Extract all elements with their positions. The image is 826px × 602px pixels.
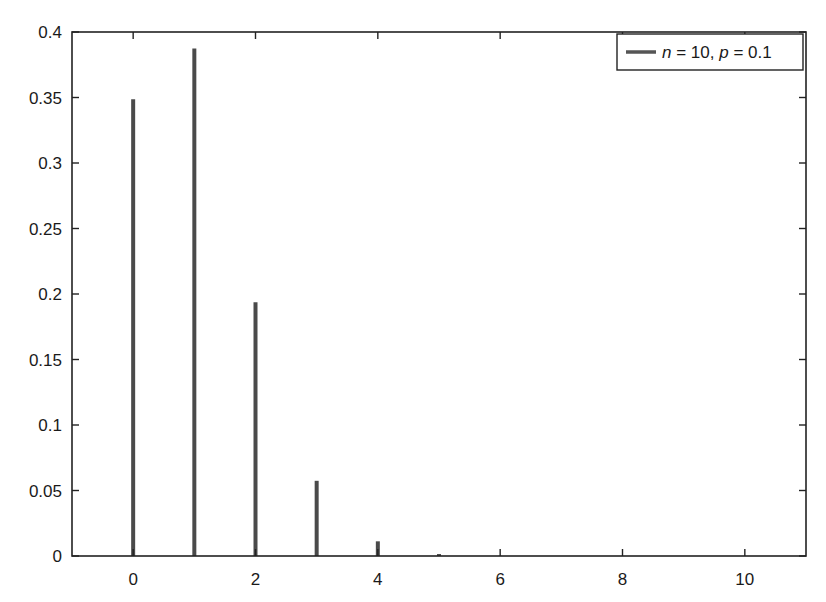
y-tick-label: 0 bbox=[53, 547, 62, 566]
y-tick-label: 0.35 bbox=[29, 89, 62, 108]
y-tick-label: 0.15 bbox=[29, 351, 62, 370]
stem-series bbox=[133, 49, 500, 556]
x-tick-label: 6 bbox=[495, 570, 504, 589]
y-tick-label: 0.05 bbox=[29, 482, 62, 501]
plot-area-frame bbox=[72, 32, 806, 556]
y-tick-label: 0.25 bbox=[29, 220, 62, 239]
x-axis: 0246810 bbox=[128, 32, 754, 589]
y-axis: 00.050.10.150.20.250.30.350.4 bbox=[29, 23, 806, 566]
y-tick-label: 0.4 bbox=[38, 23, 62, 42]
x-tick-label: 4 bbox=[373, 570, 382, 589]
stem-chart: 00.050.10.150.20.250.30.350.4 0246810 n … bbox=[0, 0, 826, 602]
x-tick-label: 2 bbox=[251, 570, 260, 589]
x-tick-label: 10 bbox=[735, 570, 754, 589]
x-tick-label: 0 bbox=[128, 570, 137, 589]
y-tick-label: 0.1 bbox=[38, 416, 62, 435]
legend-label: n = 10, p = 0.1 bbox=[662, 43, 772, 62]
y-tick-label: 0.2 bbox=[38, 285, 62, 304]
x-tick-label: 8 bbox=[618, 570, 627, 589]
legend: n = 10, p = 0.1 bbox=[617, 34, 803, 70]
y-tick-label: 0.3 bbox=[38, 154, 62, 173]
